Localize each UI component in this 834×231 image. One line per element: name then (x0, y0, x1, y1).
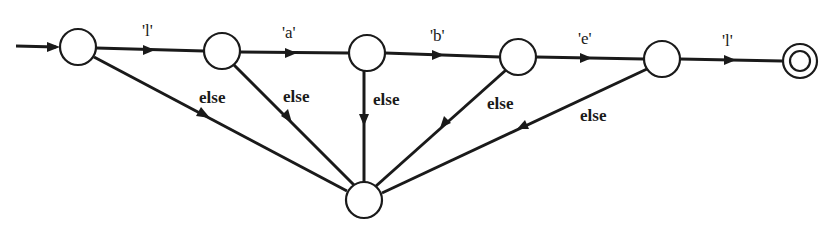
state-s1 (204, 33, 240, 69)
state-accept-inner (790, 51, 810, 71)
automaton-diagram: 'l' 'a' 'b' 'e' 'l' else else else else … (0, 0, 834, 231)
state-s0 (60, 29, 96, 65)
arrow-icon (143, 45, 155, 55)
edge-label: 'e' (578, 29, 592, 48)
edge-s4-fail (382, 69, 647, 193)
state-s3 (500, 39, 536, 75)
state-fail (346, 182, 382, 218)
start-arrow-icon (47, 42, 60, 52)
edge-label: 'l' (142, 21, 153, 40)
arrow-icon (440, 116, 451, 128)
edge-label: 'a' (282, 23, 296, 42)
edge-label: else (199, 88, 226, 107)
edge-label: else (580, 106, 607, 125)
edge-label: else (373, 90, 400, 109)
edge-label: else (283, 87, 310, 106)
arrow-icon (285, 48, 297, 58)
edge-label: else (487, 94, 514, 113)
arrow-icon (281, 109, 292, 123)
edge-s0-fail (94, 57, 347, 191)
arrow-icon (432, 50, 444, 60)
arrow-icon (196, 107, 210, 118)
edge-s1-fail (234, 65, 354, 185)
state-s2 (349, 35, 385, 71)
edge-label: 'b' (430, 26, 445, 45)
arrow-icon (724, 55, 736, 65)
edge-label: 'l' (722, 31, 733, 50)
arrow-icon (359, 114, 369, 126)
edge-s3-fail (376, 70, 506, 186)
state-s4 (644, 41, 680, 77)
arrow-icon (580, 53, 592, 63)
